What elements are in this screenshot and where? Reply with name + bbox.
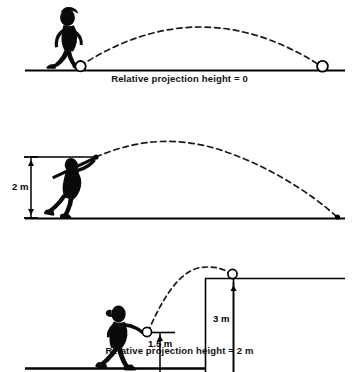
dimension-label-1-5m: 1.5 m <box>148 338 172 349</box>
athlete-soccer-player <box>46 7 82 69</box>
ball-at-landing <box>317 61 328 72</box>
ball-at-landing <box>228 269 237 278</box>
javelin-landing-point <box>335 214 340 219</box>
trajectory-path <box>80 27 321 66</box>
dimension-label-3m: 3 m <box>213 313 229 324</box>
panel-zero-height: Relative projection height = 0 <box>0 0 359 124</box>
dimension-label-2m: 2 m <box>12 181 28 192</box>
athlete-javelin-thrower <box>44 156 97 219</box>
ball-at-release <box>142 327 151 336</box>
panel-negative-height <box>0 248 359 372</box>
athlete-netball-player <box>95 306 143 371</box>
dimension-landing-arrowheads <box>231 285 237 291</box>
projectile-height-figure: Relative projection height = 0 <box>0 0 359 372</box>
caption-panel-zero-height: Relative projection height = 0 <box>0 73 359 84</box>
trajectory-path <box>96 141 337 217</box>
panel-two-metre-height: Relative projection height = 2 m <box>0 124 359 248</box>
javelin-release-point <box>93 154 98 159</box>
ball-at-launch <box>75 61 85 71</box>
